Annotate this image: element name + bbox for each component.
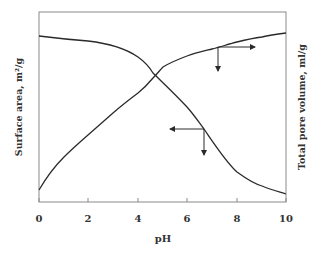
surface-area-axis-arrow	[170, 129, 204, 155]
x-tick-label: 10	[279, 213, 293, 224]
x-tick-label: 2	[85, 213, 92, 224]
x-tick-label: 6	[184, 213, 191, 224]
x-axis-ticks	[39, 198, 286, 202]
x-tick-label: 0	[36, 213, 43, 224]
surface-area-curve	[39, 36, 286, 194]
pore-volume-axis-arrow	[218, 47, 255, 71]
pore-volume-curve	[39, 33, 286, 190]
x-tick-labels: 0 2 4 6 8 10	[36, 213, 293, 224]
chart: 0 2 4 6 8 10 pH Surface area, m²/g Total…	[0, 0, 322, 258]
x-axis-label: pH	[155, 233, 171, 244]
y-axis-label-left: Surface area, m²/g	[13, 57, 25, 156]
x-tick-label: 4	[135, 213, 142, 224]
y-axis-label-right: Total pore volume, ml/g	[296, 44, 308, 170]
x-tick-label: 8	[234, 213, 241, 224]
